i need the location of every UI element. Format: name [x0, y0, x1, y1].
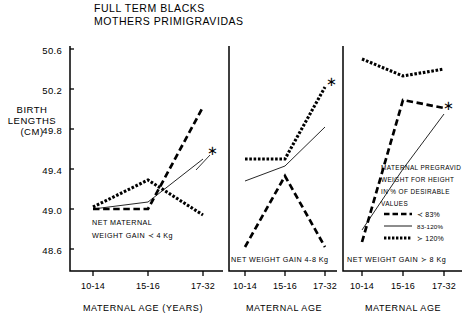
figure-root: FULL TERM BLACKS MOTHERS PRIMIGRAVIDAS B… — [0, 0, 464, 324]
panel1-series-83to120 — [93, 159, 203, 209]
panel3-series-gt120 — [362, 59, 444, 76]
plot-canvas: ∗ ∗ ∗ — [0, 0, 464, 324]
panel3-significance-star: ∗ — [443, 98, 454, 113]
panel2-series-83to120 — [245, 127, 325, 181]
panel3-series-83to120 — [362, 114, 444, 230]
panel2-significance-star: ∗ — [326, 74, 337, 89]
panel2-series-gt120 — [245, 87, 325, 159]
panel1-significance-star: ∗ — [207, 143, 218, 158]
panel1-series-lt83 — [93, 107, 203, 209]
panel3-series-lt83 — [362, 100, 444, 242]
panel2-series-lt83 — [245, 176, 325, 247]
